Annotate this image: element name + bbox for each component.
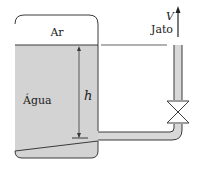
pipe-outer-wall bbox=[98, 45, 182, 140]
tank-jet-diagram: Ar Água h V Jato bbox=[0, 0, 199, 169]
height-label: h bbox=[84, 88, 92, 103]
pipe-inner-wall bbox=[98, 45, 174, 132]
water-label: Água bbox=[22, 93, 52, 107]
valve-icon bbox=[167, 100, 189, 124]
velocity-arrow-icon bbox=[176, 6, 181, 37]
pipe bbox=[98, 45, 182, 140]
jet-label: Jato bbox=[150, 23, 173, 36]
velocity-label: V bbox=[166, 10, 175, 23]
air-label: Ar bbox=[49, 26, 64, 39]
